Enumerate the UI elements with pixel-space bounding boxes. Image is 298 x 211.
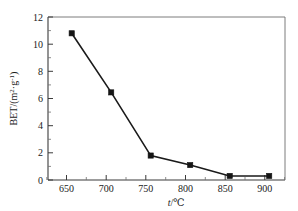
y-axis-title-close: ) [8, 72, 20, 75]
data-point-marker [148, 153, 153, 158]
y-tick-label: 10 [33, 39, 43, 50]
data-point-marker [267, 173, 272, 178]
x-tick-label: 650 [59, 183, 74, 194]
x-axis-title-unit: /℃ [170, 197, 184, 208]
y-axis-major-ticks [48, 17, 53, 180]
y-axis-title-main: BET/(m [8, 92, 20, 125]
data-point-marker [109, 90, 114, 95]
chart-figure: 0 2 4 6 8 10 12 650 700 750 800 850 900 … [0, 0, 298, 211]
x-tick-label: 700 [99, 183, 114, 194]
x-tick-label: 800 [178, 183, 193, 194]
y-tick-label: 12 [33, 12, 43, 23]
y-tick-label: 6 [38, 93, 43, 104]
y-tick-label: 2 [38, 147, 43, 158]
data-point-marker [227, 173, 232, 178]
plot-frame [48, 17, 285, 180]
y-axis-title: BET/(m2·g-1) [8, 72, 20, 126]
y-tick-label: 4 [38, 120, 43, 131]
x-tick-label: 850 [218, 183, 233, 194]
bet-series-line [72, 33, 270, 176]
x-axis-tick-labels: 650 700 750 800 850 900 [59, 183, 272, 194]
y-axis-tick-labels: 0 2 4 6 8 10 12 [33, 12, 43, 186]
y-tick-label: 0 [38, 175, 43, 186]
bet-series-markers [69, 31, 272, 179]
y-tick-label: 8 [38, 66, 43, 77]
data-point-marker [69, 31, 74, 36]
data-point-marker [188, 162, 193, 167]
y-axis-title-middle: ·g [8, 81, 19, 89]
bet-vs-temperature-line-chart: 0 2 4 6 8 10 12 650 700 750 800 850 900 … [0, 0, 298, 211]
x-tick-label: 900 [257, 183, 272, 194]
x-tick-label: 750 [138, 183, 153, 194]
x-axis-title: t/℃ [168, 197, 185, 208]
